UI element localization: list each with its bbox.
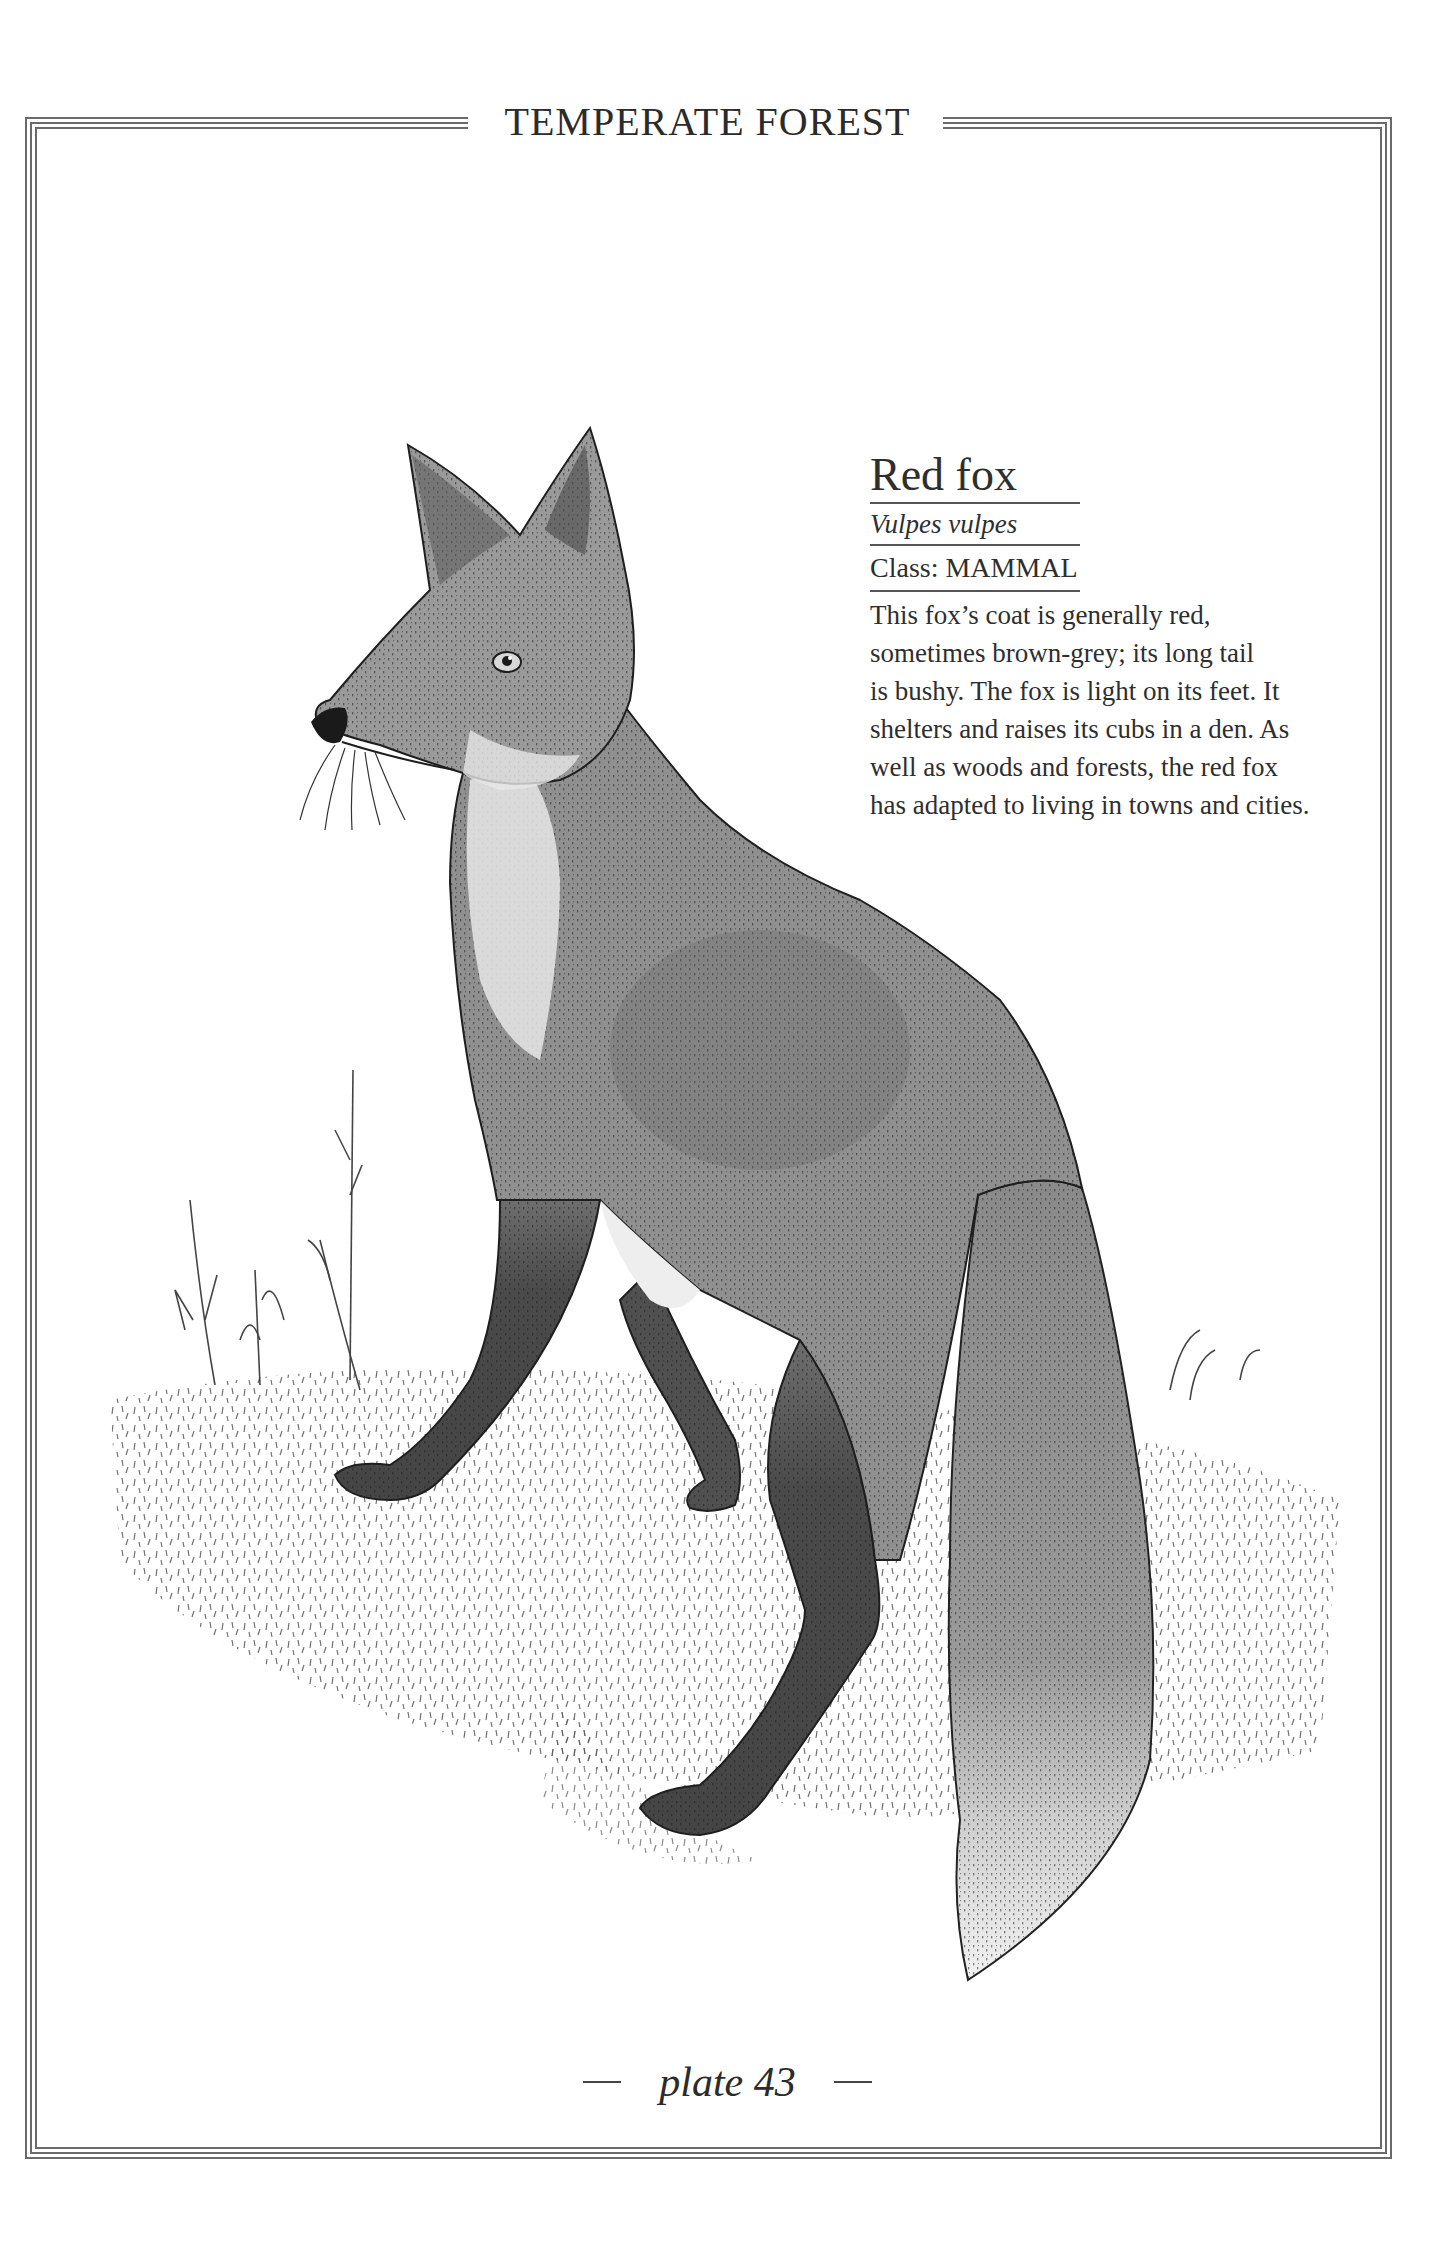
plate-footer: plate 43	[0, 2058, 1455, 2106]
dash-right	[834, 2081, 872, 2083]
plate-number: plate 43	[659, 2059, 795, 2105]
divider	[870, 590, 1080, 592]
species-common-name: Red fox	[870, 450, 1340, 502]
species-latin-name: Vulpes vulpes	[870, 504, 1340, 544]
dash-left	[583, 2081, 621, 2083]
fox-eye	[493, 652, 521, 672]
description-line: is bushy. The fox is light on its feet. …	[870, 672, 1340, 710]
description-line: This fox’s coat is generally red,	[870, 596, 1340, 634]
description-line: sometimes brown-grey; its long tail	[870, 634, 1340, 672]
description-line: well as woods and forests, the red fox	[870, 748, 1340, 786]
red-fox-illustration	[0, 0, 1455, 2242]
description-line: shelters and raises its cubs in a den. A…	[870, 710, 1340, 748]
description-line: has adapted to living in towns and citie…	[870, 786, 1340, 824]
species-description: This fox’s coat is generally red, someti…	[870, 596, 1340, 824]
species-info: Red fox Vulpes vulpes Class: MAMMAL This…	[870, 450, 1340, 824]
species-class: Class: MAMMAL	[870, 546, 1340, 590]
fox-whiskers	[300, 745, 405, 830]
